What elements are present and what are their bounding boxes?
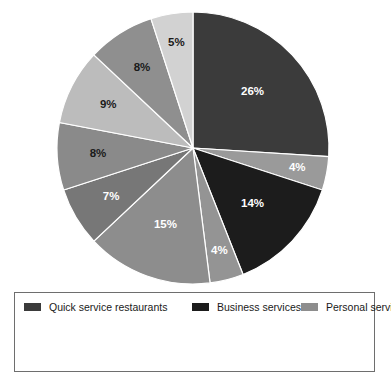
chart-legend: Quick service restaurantsBusiness servic…	[14, 292, 375, 372]
page-bottom-margin	[0, 381, 391, 391]
legend-color-swatch	[24, 303, 41, 311]
legend-item-label: Quick service restaurants	[49, 302, 167, 313]
pie-slice-label: 4%	[289, 161, 306, 173]
pie-chart-page: 26%4%14%4%15%7%8%9%8%5% Quick service re…	[0, 0, 391, 391]
legend-item[interactable]: Business services	[192, 300, 301, 314]
legend-item-label: Personal services	[326, 302, 391, 313]
legend-grid: Quick service restaurantsBusiness servic…	[15, 299, 374, 314]
pie-slice-label: 15%	[154, 218, 177, 230]
pie-chart-area: 26%4%14%4%15%7%8%9%8%5%	[0, 0, 391, 288]
legend-item[interactable]: Personal services	[301, 300, 391, 314]
pie-chart-svg: 26%4%14%4%15%7%8%9%8%5%	[0, 0, 391, 288]
legend-item-label: Business services	[217, 302, 301, 313]
legend-color-swatch	[192, 303, 209, 311]
pie-slice-label: 5%	[168, 36, 185, 48]
pie-slice-label: 4%	[211, 244, 228, 256]
pie-slice-label: 14%	[241, 197, 264, 209]
pie-slice-label: 7%	[103, 190, 120, 202]
legend-item[interactable]: Quick service restaurants	[24, 300, 192, 314]
legend-color-swatch	[301, 303, 318, 311]
pie-slice-label: 8%	[90, 147, 107, 159]
pie-slice-label: 8%	[134, 61, 151, 73]
pie-slice-label: 26%	[241, 85, 264, 97]
pie-slice-label: 9%	[100, 98, 117, 110]
